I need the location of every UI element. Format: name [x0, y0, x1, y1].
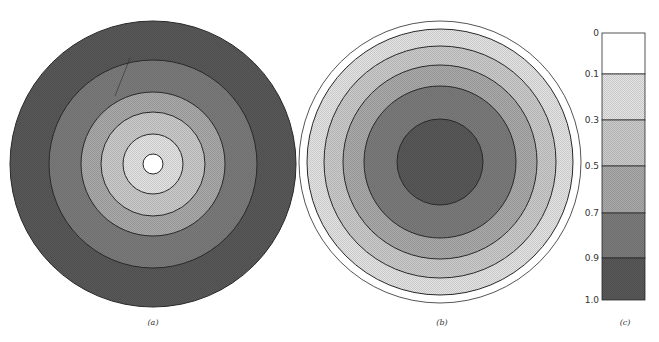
figure-svg — [0, 0, 659, 342]
scale-band-dither — [602, 258, 645, 300]
scale-band-dither — [602, 213, 645, 258]
scale-tick-label: 0.9 — [575, 253, 599, 263]
panel-a-contour-disk — [10, 21, 296, 307]
scale-tick-label: 0.1 — [575, 69, 599, 79]
scale-bar — [602, 33, 645, 300]
ring-dither — [397, 119, 483, 205]
figure-stage: (a) (b) (c) 00.10.30.50.70.91.0 — [0, 0, 659, 342]
scale-band — [602, 33, 645, 74]
scale-tick-label: 0.3 — [575, 115, 599, 125]
scale-tick-label: 0.7 — [575, 208, 599, 218]
scale-tick-label: 0.5 — [575, 161, 599, 171]
scale-band-dither — [602, 120, 645, 166]
contour-ring — [143, 154, 163, 174]
scale-band-dither — [602, 166, 645, 213]
panel-b-label: (b) — [436, 318, 447, 327]
scale-band-dither — [602, 74, 645, 120]
panel-b-contour-disk — [299, 21, 581, 303]
panel-a-label: (a) — [147, 318, 158, 327]
scale-tick-label: 1.0 — [575, 295, 599, 305]
scale-tick-label: 0 — [575, 28, 599, 38]
scale-bar-label: (c) — [620, 318, 631, 327]
